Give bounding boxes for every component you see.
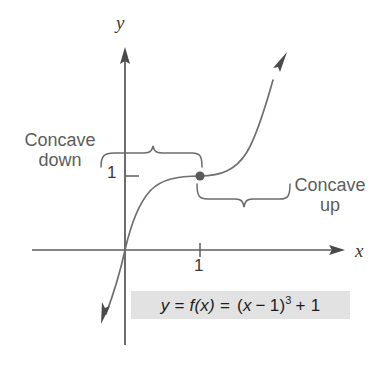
y-axis-label: y xyxy=(116,12,124,33)
curve-arrowhead-up xyxy=(273,52,287,72)
equation-plus-one: + 1 xyxy=(296,296,321,315)
equation-exponent: 3 xyxy=(285,294,291,306)
equation-minus: − xyxy=(256,296,266,315)
concave-down-line1: Concave xyxy=(24,130,95,150)
concave-up-brace xyxy=(197,184,290,207)
x-axis-label: x xyxy=(355,240,363,261)
equation-one-close: 1) xyxy=(270,296,286,315)
concavity-figure: Concave down Concave up y x 1 1 y=f(x)=(… xyxy=(0,0,387,371)
inflection-point-dot xyxy=(195,171,204,180)
y-axis-tick-label-1: 1 xyxy=(107,163,116,182)
equation-text: y=f(x)=(x−1)3+ 1 xyxy=(161,294,321,316)
equation-y: y xyxy=(161,296,170,315)
equation-fx: f(x) xyxy=(190,296,215,315)
equation-equals-1: = xyxy=(174,296,184,315)
concave-up-line2: up xyxy=(320,195,340,215)
concave-down-label: Concave down xyxy=(14,130,106,170)
concave-up-line1: Concave xyxy=(294,175,365,195)
equation-x-var: x xyxy=(243,296,252,315)
x-axis-tick-label-1: 1 xyxy=(194,256,203,275)
cubic-curve xyxy=(106,80,273,314)
concave-up-label: Concave up xyxy=(280,175,380,215)
concave-down-line2: down xyxy=(38,150,81,170)
equation-box: y=f(x)=(x−1)3+ 1 xyxy=(131,291,350,319)
equation-equals-2: = xyxy=(220,296,230,315)
cubic-curve-group xyxy=(101,52,287,324)
